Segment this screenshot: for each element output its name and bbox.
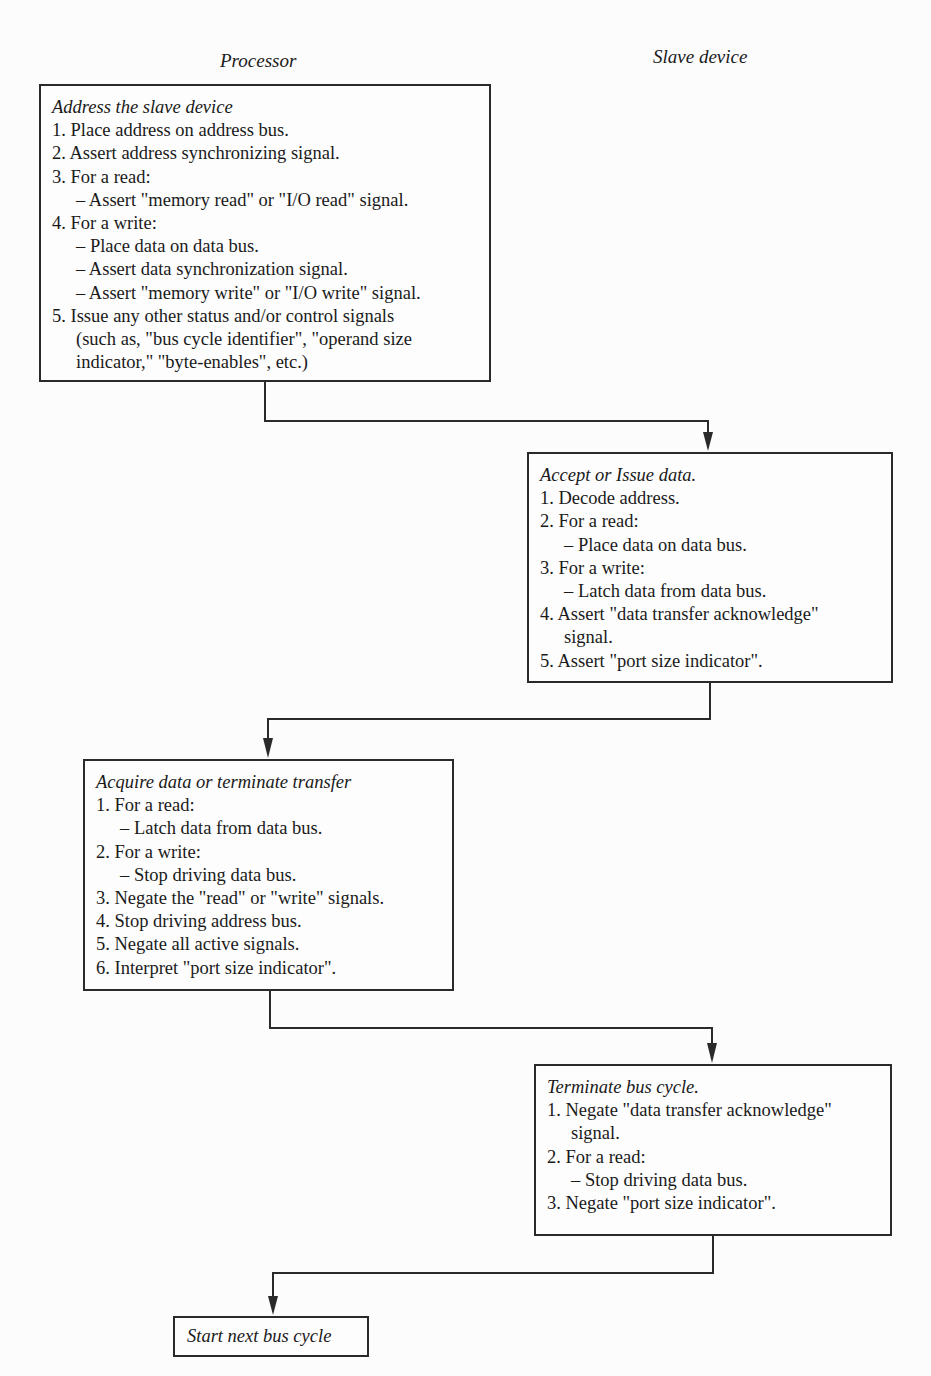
step-subline: – Latch data from data bus. xyxy=(96,817,452,840)
step-subline: – Stop driving data bus. xyxy=(96,864,452,887)
step-line: 3. For a write: xyxy=(540,557,891,580)
slave-device-column-header: Slave device xyxy=(653,46,747,68)
step-line: 3. Negate the "read" or "write" signals. xyxy=(96,887,452,910)
step-continuation: signal. xyxy=(547,1122,890,1145)
step-title: Start next bus cycle xyxy=(187,1325,367,1348)
processor-column-header: Processor xyxy=(220,50,296,72)
step-subline: – Place data on data bus. xyxy=(52,235,489,258)
connector-terminate-to-start xyxy=(268,1235,713,1315)
step-accept-or-issue-data: Accept or Issue data. 1. Decode address.… xyxy=(527,452,893,683)
step-line: 3. Negate "port size indicator". xyxy=(547,1192,890,1215)
arrowhead-icon xyxy=(268,1296,278,1315)
step-title: Accept or Issue data. xyxy=(540,464,891,487)
connector-address-to-accept xyxy=(265,381,713,451)
step-address-slave-device: Address the slave device 1. Place addres… xyxy=(39,84,491,382)
step-line: 2. For a read: xyxy=(547,1146,890,1169)
arrowhead-icon xyxy=(703,432,713,451)
step-acquire-data-or-terminate: Acquire data or terminate transfer 1. Fo… xyxy=(83,759,454,991)
step-line: 4. Stop driving address bus. xyxy=(96,910,452,933)
step-line: 5. Negate all active signals. xyxy=(96,933,452,956)
connector-accept-to-acquire xyxy=(263,682,710,758)
step-line: 2. For a write: xyxy=(96,841,452,864)
step-title: Terminate bus cycle. xyxy=(547,1076,890,1099)
step-continuation: (such as, "bus cycle identifier", "opera… xyxy=(52,328,489,351)
step-line: 5. Issue any other status and/or control… xyxy=(52,305,489,328)
step-subline: – Assert data synchronization signal. xyxy=(52,258,489,281)
step-line: 2. Assert address synchronizing signal. xyxy=(52,142,489,165)
arrowhead-icon xyxy=(707,1043,717,1063)
step-start-next-bus-cycle: Start next bus cycle xyxy=(173,1316,369,1357)
step-line: 1. Place address on address bus. xyxy=(52,119,489,142)
step-subline: – Stop driving data bus. xyxy=(547,1169,890,1192)
step-terminate-bus-cycle: Terminate bus cycle. 1. Negate "data tra… xyxy=(534,1064,892,1236)
step-continuation: indicator," "byte-enables", etc.) xyxy=(52,351,489,374)
step-subline: – Place data on data bus. xyxy=(540,534,891,557)
step-line: 1. Negate "data transfer acknowledge" xyxy=(547,1099,890,1122)
step-title: Acquire data or terminate transfer xyxy=(96,771,452,794)
step-line: 5. Assert "port size indicator". xyxy=(540,650,891,673)
step-line: 2. For a read: xyxy=(540,510,891,533)
step-line: 1. For a read: xyxy=(96,794,452,817)
connector-acquire-to-terminate xyxy=(270,990,717,1063)
step-line: 4. For a write: xyxy=(52,212,489,235)
step-line: 1. Decode address. xyxy=(540,487,891,510)
step-continuation: signal. xyxy=(540,626,891,649)
step-line: 4. Assert "data transfer acknowledge" xyxy=(540,603,891,626)
step-line: 6. Interpret "port size indicator". xyxy=(96,957,452,980)
arrowhead-icon xyxy=(263,738,273,758)
step-subline: – Assert "memory write" or "I/O write" s… xyxy=(52,282,489,305)
step-title: Address the slave device xyxy=(52,96,489,119)
step-subline: – Assert "memory read" or "I/O read" sig… xyxy=(52,189,489,212)
step-line: 3. For a read: xyxy=(52,166,489,189)
step-subline: – Latch data from data bus. xyxy=(540,580,891,603)
